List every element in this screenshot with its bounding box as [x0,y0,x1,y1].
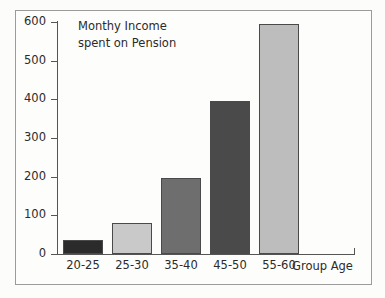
bar-25-30[interactable] [112,223,152,254]
x-axis-end-tick [354,248,355,255]
y-tick-label-wrap-0: 0 [12,254,46,255]
y-tick-label-600: 600 [12,16,46,28]
chart-title-line-1: Monthy Income [78,18,176,35]
y-tick-label-400: 400 [12,93,46,105]
bar-45-50[interactable] [210,101,250,254]
y-tick-200 [51,177,58,178]
y-tick-label-300: 300 [12,132,46,144]
y-tick-0 [51,254,58,255]
y-tick-100 [51,215,58,216]
y-tick-label-200: 200 [12,171,46,183]
y-tick-label-0: 0 [12,248,46,260]
chart-title: Monthy Income spent on Pension [78,18,176,51]
y-tick-label-500: 500 [12,55,46,67]
y-tick-label-wrap-300: 300 [12,138,46,139]
y-tick-label-100: 100 [12,209,46,221]
y-tick-300 [51,138,58,139]
y-tick-label-wrap-100: 100 [12,215,46,216]
bar-20-25[interactable] [63,240,103,254]
x-axis-title: Group Age [292,259,353,273]
y-tick-label-wrap-400: 400 [12,99,46,100]
y-tick-label-wrap-200: 200 [12,177,46,178]
y-tick-500 [51,61,58,62]
bar-55-60[interactable] [259,24,299,254]
y-tick-label-wrap-500: 500 [12,61,46,62]
bar-35-40[interactable] [161,178,201,254]
y-tick-600 [51,22,58,23]
y-tick-label-wrap-600: 600 [12,22,46,23]
chart-page: 0100200300400500600 20-2525-3035-4045-50… [0,0,385,298]
y-tick-400 [51,99,58,100]
x-axis-line [57,254,354,255]
plot-area: 0100200300400500600 20-2525-3035-4045-50… [0,0,385,298]
chart-title-line-2: spent on Pension [78,35,176,52]
